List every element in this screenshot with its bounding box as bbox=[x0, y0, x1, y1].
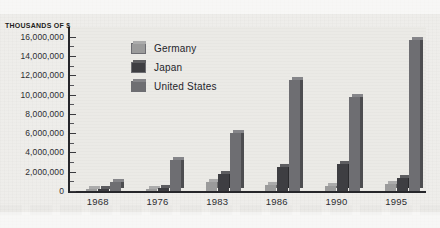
bar-face bbox=[146, 189, 157, 191]
y-tick-0 bbox=[70, 191, 76, 192]
y-axis-label: 6,000,000 bbox=[0, 128, 64, 138]
bar-face bbox=[98, 189, 109, 191]
bar-face bbox=[349, 97, 360, 191]
y-axis-label: 2,000,000 bbox=[0, 167, 64, 177]
bar-side bbox=[300, 77, 303, 188]
chart-legend: GermanyJapanUnited States bbox=[131, 40, 217, 97]
bar-japan-1968 bbox=[98, 189, 109, 191]
bar-face bbox=[337, 164, 348, 191]
bar-united-states-1990 bbox=[349, 97, 360, 191]
grouped-bar-chart: THOUSANDS OF $ 02,000,0004,000,0006,000,… bbox=[0, 0, 440, 228]
bar-face bbox=[325, 186, 336, 191]
bar-germany-1983 bbox=[206, 182, 217, 191]
bar-face bbox=[206, 182, 217, 191]
bar-germany-1986 bbox=[265, 185, 276, 191]
bar-united-states-1995 bbox=[409, 40, 420, 191]
bar-face bbox=[158, 188, 169, 191]
bar-face bbox=[265, 185, 276, 191]
bar-japan-1976 bbox=[158, 188, 169, 191]
bar-germany-1995 bbox=[385, 184, 396, 191]
bar-united-states-1983 bbox=[230, 133, 241, 191]
bar-face bbox=[397, 178, 408, 192]
legend-swatch-top bbox=[133, 41, 146, 44]
bar-side bbox=[420, 37, 423, 188]
bar-face bbox=[86, 189, 97, 191]
legend-item-united-states: United States bbox=[131, 78, 217, 94]
x-axis-label-1990: 1990 bbox=[307, 196, 367, 207]
x-axis-label-1995: 1995 bbox=[366, 196, 426, 207]
y-axis-label: 10,000,000 bbox=[0, 90, 64, 100]
y-axis-label: 4,000,000 bbox=[0, 147, 64, 157]
bar-germany-1990 bbox=[325, 186, 336, 191]
bar-japan-1986 bbox=[277, 167, 288, 191]
legend-item-japan: Japan bbox=[131, 59, 217, 75]
bars-layer bbox=[68, 27, 426, 191]
bar-side bbox=[241, 130, 244, 188]
bar-united-states-1976 bbox=[170, 160, 181, 191]
y-axis-label: 0 bbox=[0, 186, 64, 196]
y-axis-label: 16,000,000 bbox=[0, 32, 64, 42]
bar-japan-1995 bbox=[397, 178, 408, 192]
bar-united-states-1968 bbox=[110, 182, 121, 191]
bar-side bbox=[360, 94, 363, 188]
bar-japan-1983 bbox=[218, 174, 229, 191]
bar-germany-1968 bbox=[86, 189, 97, 191]
x-axis-label-1986: 1986 bbox=[247, 196, 307, 207]
legend-swatch-icon bbox=[131, 43, 146, 54]
bar-face bbox=[385, 184, 396, 191]
x-axis-label-1976: 1976 bbox=[128, 196, 188, 207]
y-axis-label: 8,000,000 bbox=[0, 109, 64, 119]
bar-japan-1990 bbox=[337, 164, 348, 191]
bar-face bbox=[218, 174, 229, 191]
bar-face bbox=[409, 40, 420, 191]
x-axis-label-1983: 1983 bbox=[187, 196, 247, 207]
legend-swatch-icon bbox=[131, 81, 146, 92]
legend-item-germany: Germany bbox=[131, 40, 217, 56]
y-axis-label: 12,000,000 bbox=[0, 70, 64, 80]
bar-united-states-1986 bbox=[289, 80, 300, 191]
y-axis-title: THOUSANDS OF $ bbox=[5, 22, 70, 29]
legend-label: Germany bbox=[154, 43, 197, 54]
bar-face bbox=[230, 133, 241, 191]
legend-swatch-icon bbox=[131, 62, 146, 73]
legend-swatch-top bbox=[133, 60, 146, 63]
x-axis-label-1968: 1968 bbox=[68, 196, 128, 207]
bar-side bbox=[181, 157, 184, 188]
y-axis-label: 14,000,000 bbox=[0, 51, 64, 61]
legend-label: Japan bbox=[154, 62, 182, 73]
legend-swatch-top bbox=[133, 79, 146, 82]
bar-face bbox=[289, 80, 300, 191]
x-axis-line bbox=[68, 191, 426, 193]
legend-label: United States bbox=[154, 81, 217, 92]
bar-face bbox=[277, 167, 288, 191]
bar-germany-1976 bbox=[146, 189, 157, 191]
bar-face bbox=[110, 182, 121, 191]
chart-page: THOUSANDS OF $ 02,000,0004,000,0006,000,… bbox=[0, 0, 440, 228]
bar-face bbox=[170, 160, 181, 191]
